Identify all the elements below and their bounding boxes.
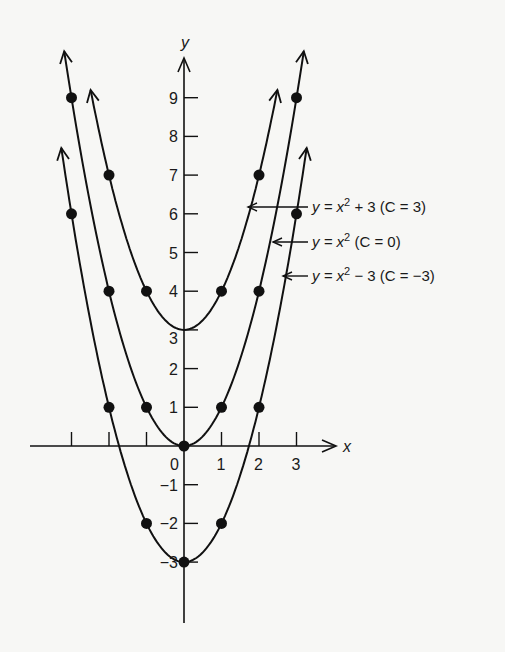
data-point <box>254 286 265 297</box>
y-tick-label: 2 <box>169 361 178 378</box>
y-tick-label: 1 <box>169 399 178 416</box>
data-point <box>141 518 152 529</box>
x-tick-label: 0 <box>170 456 179 473</box>
y-tick-label: 5 <box>169 245 178 262</box>
curve-label: y = x2 (C = 0) <box>311 231 401 250</box>
data-point <box>216 518 227 529</box>
data-point <box>291 208 302 219</box>
y-tick-label: 8 <box>169 128 178 145</box>
y-tick-label: 6 <box>169 206 178 223</box>
data-point <box>254 170 265 181</box>
y-tick-label: 3 <box>169 330 178 347</box>
data-point <box>66 92 77 103</box>
y-tick-label: 4 <box>169 283 178 300</box>
data-point <box>179 441 190 452</box>
data-point <box>104 170 115 181</box>
y-tick-label: 9 <box>169 90 178 107</box>
data-point <box>179 557 190 568</box>
data-point <box>216 286 227 297</box>
data-point <box>291 92 302 103</box>
data-point <box>141 286 152 297</box>
curve-label: y = x2 + 3 (C = 3) <box>311 196 426 215</box>
data-point <box>141 402 152 413</box>
data-point <box>104 286 115 297</box>
y-ticks: −3−2−1123456789 <box>160 90 198 571</box>
curve-label: y = x2 − 3 (C = −3) <box>311 265 435 284</box>
y-tick-label: −1 <box>160 477 178 494</box>
x-axis-label: x <box>342 438 352 455</box>
x-tick-label: 2 <box>254 456 263 473</box>
y-tick-label: 7 <box>169 167 178 184</box>
x-ticks: 0123 <box>72 432 301 473</box>
data-point <box>216 402 227 413</box>
x-tick-label: 3 <box>292 456 301 473</box>
x-tick-label: 1 <box>217 456 226 473</box>
parabola-family-chart: x y 0123 −3−2−1123456789 y = x2 + 3 (C =… <box>0 0 505 652</box>
data-point <box>66 208 77 219</box>
y-tick-label: −2 <box>160 515 178 532</box>
data-point <box>254 402 265 413</box>
y-axis-label: y <box>180 34 190 51</box>
data-point <box>104 402 115 413</box>
